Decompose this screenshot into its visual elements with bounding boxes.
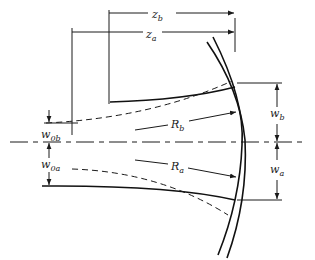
r-b-line-left — [135, 125, 168, 130]
wavefront-curve-b — [207, 42, 245, 258]
beam-matching-diagram: zb za Rb Ra wb wa — [0, 0, 315, 260]
r-a-dimension: Ra — [135, 160, 236, 177]
r-b-label: Rb — [170, 118, 184, 133]
z-a-label: za — [145, 28, 157, 43]
beam-a-edge — [42, 186, 235, 200]
w-0b-label: w0b — [41, 128, 61, 143]
r-a-line-right — [188, 168, 236, 177]
w-0a-label: w0a — [41, 158, 61, 173]
z-b-label: zb — [151, 8, 163, 23]
w-0a-dimension: w0a — [41, 143, 61, 185]
w-b-label: wb — [270, 107, 285, 122]
r-b-line-right — [189, 112, 236, 121]
beam-a-gaussian-envelope — [72, 169, 228, 215]
r-b-dimension: Rb — [135, 112, 236, 133]
beam-b-edge — [110, 87, 235, 102]
beam-b-gaussian-envelope — [46, 81, 232, 123]
r-a-label: Ra — [170, 160, 184, 175]
r-a-line-left — [135, 160, 168, 164]
w-a-label: wa — [270, 163, 284, 178]
